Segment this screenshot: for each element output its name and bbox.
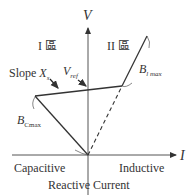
inductive-label: Inductive [119,161,164,175]
vref-label: Vref [63,64,79,80]
dashed-line [88,86,122,155]
slope-line [35,86,122,96]
slope-label: Slope Xs [9,66,50,82]
bcmax-line [35,96,88,155]
arc-top-right [147,36,150,48]
v-axis-label: V [83,8,93,23]
region1-label: I 區 [38,39,57,53]
slope-pointer [50,79,58,88]
capacitive-label: Capacitive [14,161,65,175]
region2-label: II 區 [107,39,130,53]
vi-characteristic-diagram: V I I 區 II 區 Slope Xs Vref Bl max BCmax … [0,0,191,195]
i-axis-label: I [179,148,186,163]
blmax-label: Bl max [139,62,163,78]
bcmax-label: BCmax [17,113,42,129]
vref-pointer [78,80,86,86]
x-axis-title: Reactive Current [48,178,130,192]
arc-knee-left [33,97,35,109]
